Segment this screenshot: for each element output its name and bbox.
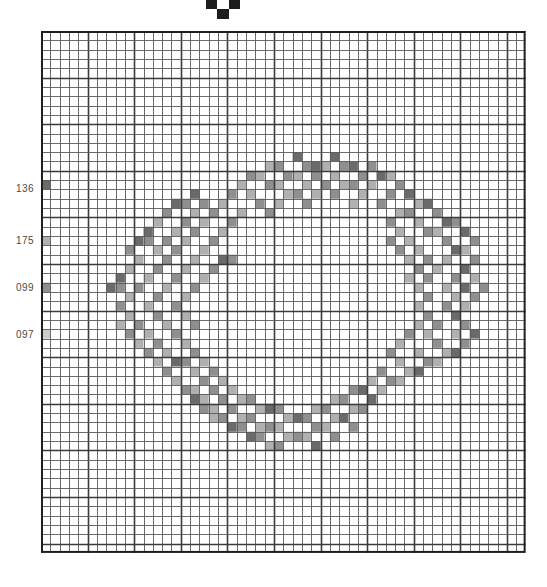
pattern-grid[interactable] bbox=[41, 31, 526, 553]
chart-page: 136 175 099 097 Cross-Stitch Wreath Patt… bbox=[0, 0, 547, 587]
page-title: Cross-Stitch Wreath Pattern Chart bbox=[0, 21, 1, 22]
legend-code-175: 175 bbox=[4, 235, 34, 246]
center-marker-icon bbox=[206, 0, 240, 22]
center-marker-left-block bbox=[206, 0, 217, 9]
pattern-grid-canvas[interactable] bbox=[41, 31, 526, 553]
center-marker-right-block bbox=[229, 0, 240, 9]
legend-code-099: 099 bbox=[4, 282, 34, 293]
center-marker-mid-block bbox=[217, 9, 229, 19]
legend-code-136: 136 bbox=[4, 183, 34, 194]
legend-code-097: 097 bbox=[4, 329, 34, 340]
